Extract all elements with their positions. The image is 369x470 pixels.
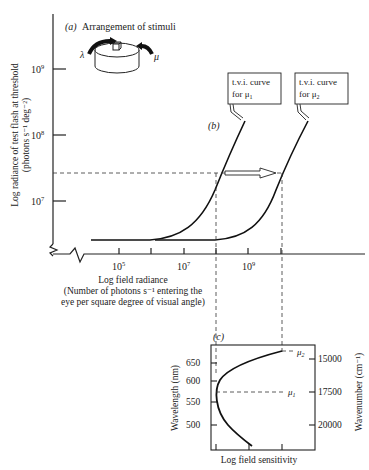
callout-mu1: t.v.i. curve for μ1: [228, 73, 281, 120]
x-tick-label: 109: [242, 260, 255, 272]
tvi-curve-mu1: [91, 121, 245, 240]
svg-text:t.v.i. curve: t.v.i. curve: [299, 77, 337, 87]
svg-text:(photons s⁻¹ deg⁻²): (photons s⁻¹ deg⁻²): [21, 98, 32, 172]
y-tick-labels: 107 108 109: [31, 63, 45, 207]
tvi-curve-mu2: [155, 121, 308, 240]
mu1-marker: μ1: [287, 387, 296, 398]
svg-text:Arrangement of stimuli: Arrangement of stimuli: [82, 21, 176, 32]
svg-text:Log field radiance: Log field radiance: [98, 275, 168, 285]
figure: 107 108 109 105 107 109 Log radiance of …: [0, 0, 369, 470]
y-tick-label: 108: [31, 129, 44, 141]
svg-text:550: 550: [186, 397, 201, 407]
panel-a: (a) Arrangement of stimuli λ μ: [65, 21, 176, 73]
shift-arrow-icon: [225, 168, 276, 178]
svg-text:λ: λ: [79, 49, 85, 60]
svg-text:650: 650: [186, 358, 201, 368]
svg-text:Log radiance of test flash at: Log radiance of test flash at threshold: [10, 63, 20, 207]
svg-text:eye per square degree of visua: eye per square degree of visual angle): [61, 297, 205, 308]
svg-text:(Number of photons s⁻¹ enterin: (Number of photons s⁻¹ entering the: [64, 286, 202, 297]
sensitivity-axis-label: Log field sensitivity: [221, 455, 298, 465]
svg-text:t.v.i. curve: t.v.i. curve: [232, 77, 270, 87]
svg-text:600: 600: [186, 376, 201, 386]
sensitivity-curve: [216, 351, 282, 446]
svg-text:(a): (a): [65, 21, 77, 33]
svg-text:500: 500: [186, 420, 201, 430]
x-tick-label: 107: [177, 260, 191, 272]
y-tick-label: 109: [31, 63, 44, 75]
svg-text:17500: 17500: [318, 387, 342, 397]
tvi-curves: [91, 121, 308, 240]
y-axis-label: Log radiance of test flash at threshold …: [10, 63, 32, 207]
x-tick-label: 105: [112, 260, 125, 272]
panel-b-label: (b): [208, 120, 220, 132]
mu2-marker: μ2: [296, 347, 305, 358]
svg-text:for μ1: for μ1: [232, 89, 253, 100]
panel-c-label: (c): [213, 331, 225, 343]
wavelength-tick-labels: 650 600 550 500: [186, 358, 201, 430]
x-axis-label: Log field radiance (Number of photons s⁻…: [61, 275, 205, 308]
stimulus-cylinder-icon: [95, 42, 139, 73]
panel-c-frame: [211, 345, 315, 450]
callout-mu2: t.v.i. curve for μ2: [295, 73, 348, 120]
svg-text:μ: μ: [153, 51, 159, 62]
y-tick-label: 107: [31, 195, 45, 207]
svg-text:20000: 20000: [318, 420, 342, 430]
wavenumber-tick-labels: 15000 17500 20000: [318, 354, 342, 430]
svg-text:for μ2: for μ2: [299, 89, 320, 100]
svg-text:15000: 15000: [318, 354, 342, 364]
x-tick-labels: 105 107 109: [112, 260, 255, 272]
wavenumber-axis-label: Wavenumber (cm⁻¹): [354, 353, 365, 432]
wavelength-axis-label: Wavelength (nm): [170, 365, 181, 431]
